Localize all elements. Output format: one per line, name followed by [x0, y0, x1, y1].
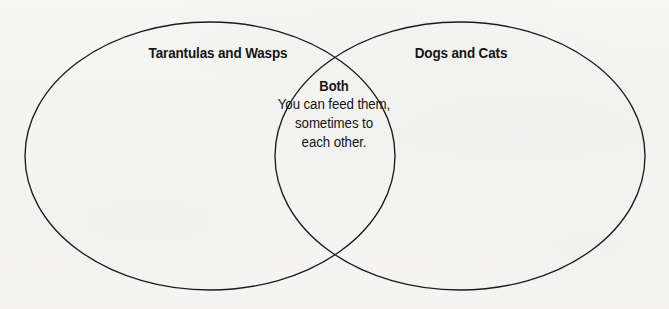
venn-circles-svg	[0, 0, 669, 309]
intersection-line-2: sometimes to	[258, 114, 410, 133]
intersection-title: Both	[260, 78, 409, 95]
right-set-ellipse	[275, 22, 645, 290]
intersection-line-1: You can feed them,	[258, 95, 410, 114]
intersection-text-block: Both You can feed them, sometimes to eac…	[254, 78, 414, 152]
right-set-label: Dogs and Cats	[387, 45, 536, 61]
left-set-label: Tarantulas and Wasps	[106, 45, 329, 61]
intersection-line-3: each other.	[258, 133, 410, 152]
left-set-ellipse	[25, 22, 395, 290]
venn-diagram-figure: Tarantulas and Wasps Dogs and Cats Both …	[0, 0, 669, 309]
